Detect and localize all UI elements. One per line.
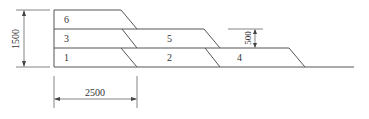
slope-layer-6	[121, 10, 137, 29]
layer-label-2: 2	[167, 52, 172, 63]
slope-layer-3	[122, 29, 137, 48]
slope-layer-2	[205, 48, 220, 67]
dimension-500-label: 500	[243, 31, 253, 45]
layer-label-5: 5	[167, 33, 172, 44]
layer-label-6: 6	[64, 14, 69, 25]
slope-layer-5	[204, 29, 220, 48]
layer-label-3: 3	[64, 33, 69, 44]
dimension-2500-label: 2500	[85, 87, 105, 98]
dimension-1500-label: 1500	[10, 29, 21, 49]
layer-label-4: 4	[237, 52, 242, 63]
layered-excavation-diagram: 1500 2500 500 6 3 5 1 2 4	[0, 0, 369, 119]
slope-layer-1	[121, 48, 137, 67]
outline	[54, 10, 354, 67]
dimension-1500	[16, 10, 50, 67]
layer-label-1: 1	[64, 52, 69, 63]
slope-layer-4	[289, 48, 305, 67]
